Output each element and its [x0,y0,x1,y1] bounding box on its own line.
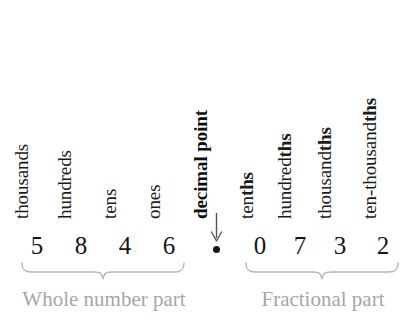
place-label-thousandths: thousandths [315,127,334,219]
place-label-ten-thousandths-suffix: ths [359,98,380,122]
place-value-diagram: thousands hundreds tens ones decimal poi… [0,0,415,331]
digit-ones: 6 [158,233,180,258]
place-label-ones: ones [144,185,163,219]
place-label-thousands: thousands [12,144,31,219]
digit-ten-thousandths: 2 [372,233,394,258]
place-label-hundredths: hundredths [275,133,294,219]
digit-hundredths: 7 [289,233,311,258]
digit-tenths: 0 [249,233,271,258]
whole-number-brace [22,263,184,279]
digit-thousandths: 3 [329,233,351,258]
decimal-point-arrow [212,213,222,241]
place-label-tenths-prefix: ten [236,196,257,219]
place-label-ten-thousandths-prefix: ten-thousand [359,122,380,219]
place-label-tenths: tenths [237,172,256,219]
place-label-thousandths-prefix: thousand [314,151,335,219]
caption-whole-number-part: Whole number part [10,287,198,312]
place-label-ones-prefix: ones [143,185,164,219]
place-label-decimal-point-prefix: decimal point [190,110,211,219]
place-label-tens-prefix: tens [99,189,120,219]
place-label-hundreds: hundreds [55,150,74,219]
decimal-point-dot [213,246,220,253]
place-label-decimal-point: decimal point [191,110,210,219]
place-label-hundredths-prefix: hundred [274,157,295,219]
digit-hundreds: 8 [70,233,92,258]
place-label-tenths-suffix: ths [236,172,257,196]
place-label-thousandths-suffix: ths [314,127,335,151]
digit-thousands: 5 [26,233,48,258]
place-label-tens: tens [100,189,119,219]
place-label-thousands-prefix: thousands [11,144,32,219]
fractional-brace [246,263,398,279]
place-label-ten-thousandths: ten-thousandths [360,98,379,219]
place-label-hundreds-prefix: hundreds [54,150,75,219]
place-label-hundredths-suffix: ths [274,133,295,157]
caption-fractional-part: Fractional part [240,287,406,312]
digit-tens: 4 [114,233,136,258]
